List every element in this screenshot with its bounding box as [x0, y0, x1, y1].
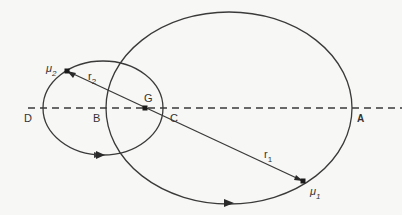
label-D: D [24, 112, 32, 124]
label-r2: r2 [88, 70, 97, 86]
small-orbit-arrowhead-icon [96, 151, 105, 159]
label-mu2: μ2 [45, 62, 57, 78]
body-mu1-marker [301, 179, 306, 184]
two-body-orbit-diagram: D B G C A μ2 r2 r1 μ1 [0, 0, 402, 215]
label-A: A [357, 113, 364, 124]
label-C: C [170, 112, 178, 124]
label-r1: r1 [264, 148, 273, 164]
label-mu1: μ1 [309, 185, 320, 201]
body-mu2-marker [65, 69, 70, 74]
large-orbit-arrowhead-icon [224, 199, 234, 207]
label-B: B [93, 112, 100, 124]
radius-line [67, 71, 303, 181]
label-G: G [144, 92, 153, 104]
centre-of-mass-marker [143, 106, 148, 111]
